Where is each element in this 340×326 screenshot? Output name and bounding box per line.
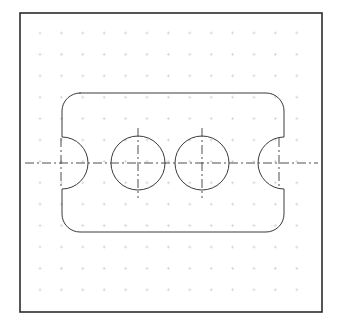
drawing-canvas bbox=[0, 0, 340, 326]
technical-drawing-svg bbox=[0, 0, 340, 326]
